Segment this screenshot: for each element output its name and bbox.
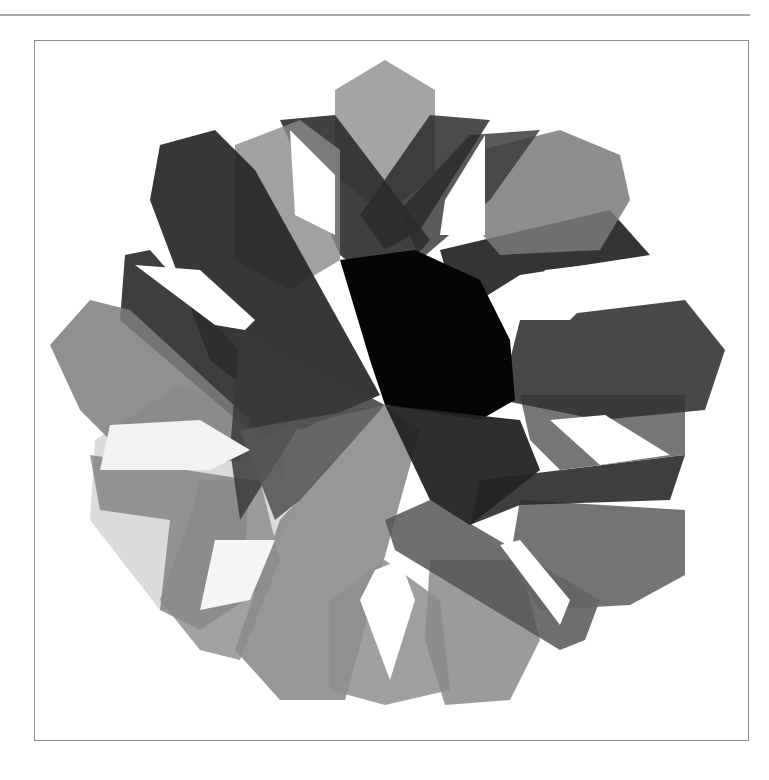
rosette-figure bbox=[0, 0, 769, 780]
rosette-shapes bbox=[50, 60, 725, 705]
band-right-hex-lower bbox=[510, 500, 685, 610]
